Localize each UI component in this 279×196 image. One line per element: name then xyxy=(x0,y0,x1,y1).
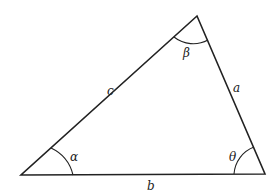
side-label-c: c xyxy=(107,84,114,98)
side-label-b: b xyxy=(147,179,155,193)
triangle-diagram: c a b α β θ xyxy=(0,0,279,196)
angle-label-beta: β xyxy=(182,46,190,60)
beta-arc xyxy=(174,37,208,44)
angle-label-alpha: α xyxy=(70,150,78,164)
side-label-a: a xyxy=(233,81,240,95)
angle-label-theta: θ xyxy=(229,150,237,164)
theta-arc xyxy=(234,147,254,174)
